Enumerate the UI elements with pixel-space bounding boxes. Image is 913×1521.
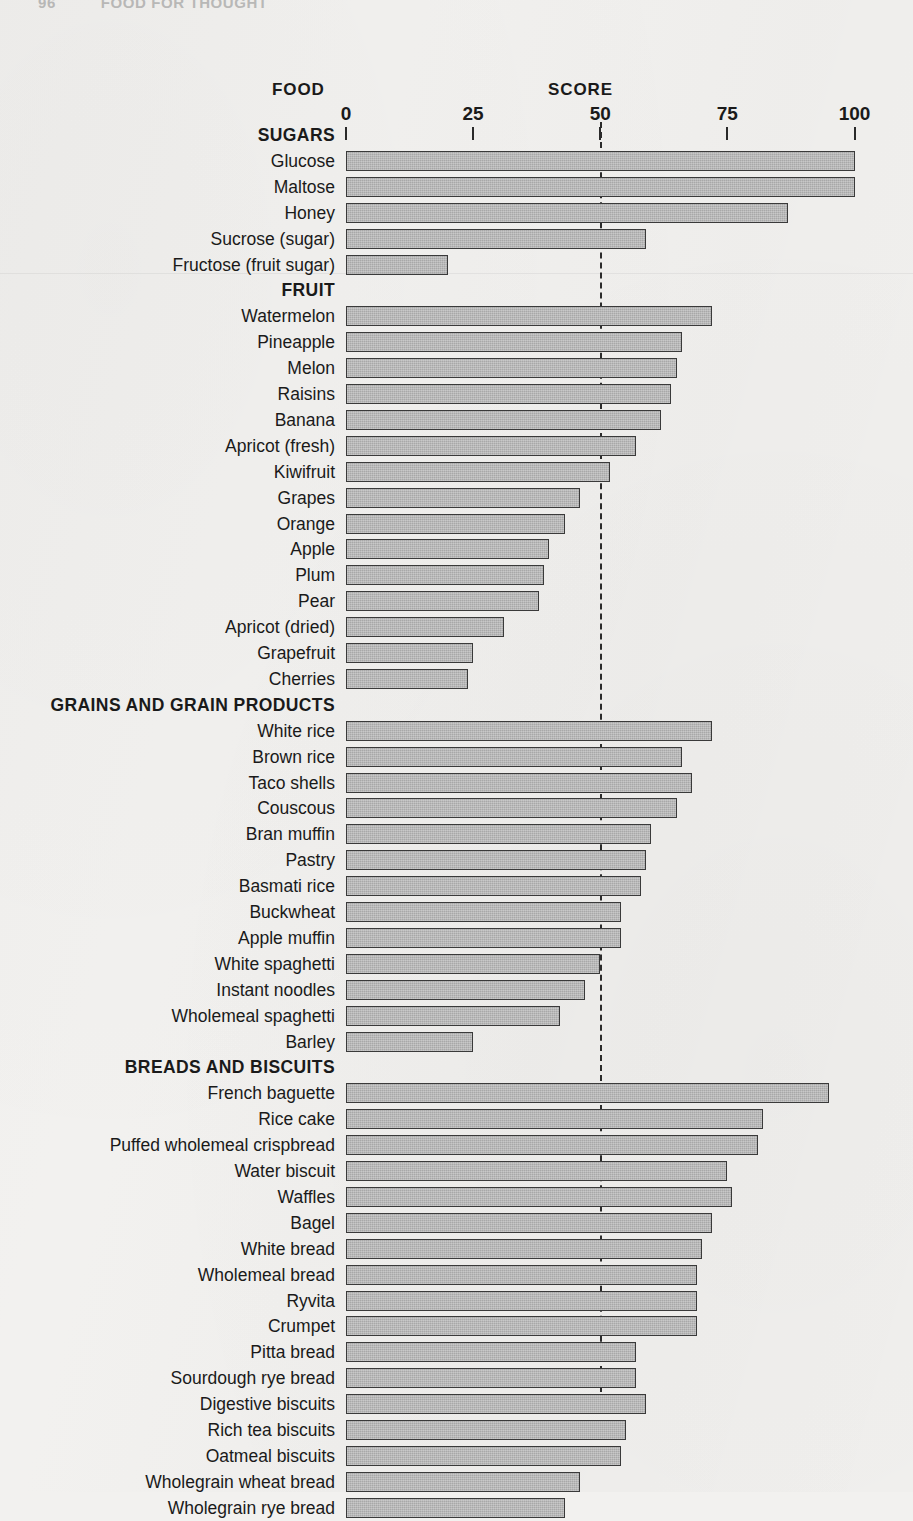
score-bar [346, 747, 682, 767]
chart-row: Puffed wholemeal crispbread [0, 1132, 913, 1158]
chart-row: Couscous [0, 795, 913, 821]
section-label: GRAINS AND GRAIN PRODUCTS [51, 695, 336, 715]
score-bar [346, 1161, 727, 1181]
chart-row: Watermelon [0, 303, 913, 329]
score-bar [346, 410, 661, 430]
chart-row: Bran muffin [0, 821, 913, 847]
food-label: White spaghetti [214, 954, 335, 974]
food-label: Pineapple [257, 332, 335, 352]
chart-row: French baguette [0, 1080, 913, 1106]
food-label: Apricot (fresh) [225, 436, 335, 456]
score-bar [346, 539, 549, 559]
food-label: Grapefruit [257, 643, 335, 663]
food-label: Banana [275, 410, 335, 430]
chart-row: Banana [0, 407, 913, 433]
chart-row: Basmati rice [0, 873, 913, 899]
score-bar [346, 1394, 646, 1414]
score-bar [346, 1472, 580, 1492]
food-label: Couscous [257, 798, 335, 818]
food-label: White rice [257, 721, 335, 741]
score-bar [346, 591, 539, 611]
score-bar [346, 773, 692, 793]
score-bar [346, 384, 671, 404]
score-bar [346, 1498, 565, 1518]
chart-row: Instant noodles [0, 977, 913, 1003]
column-header-food: FOOD [272, 80, 325, 100]
food-label: Sucrose (sugar) [211, 229, 336, 249]
chart-row: Grapefruit [0, 640, 913, 666]
food-label: Wholemeal bread [198, 1265, 335, 1285]
food-label: Bagel [290, 1213, 335, 1233]
chart-row: Wholegrain wheat bread [0, 1469, 913, 1495]
food-label: Apple muffin [238, 928, 335, 948]
score-bar [346, 229, 646, 249]
score-bar [346, 902, 621, 922]
score-bar [346, 721, 712, 741]
food-label: Plum [295, 565, 335, 585]
food-label: Taco shells [248, 773, 335, 793]
score-bar [346, 1213, 712, 1233]
chart-row: Oatmeal biscuits [0, 1443, 913, 1469]
chart-row: Pastry [0, 847, 913, 873]
chart-row: Digestive biscuits [0, 1391, 913, 1417]
score-bar [346, 1006, 560, 1026]
score-bar [346, 1239, 702, 1259]
score-bar [346, 1291, 697, 1311]
score-bar [346, 1420, 626, 1440]
score-bar [346, 332, 682, 352]
food-label: Pastry [285, 850, 335, 870]
chart-row: Cherries [0, 666, 913, 692]
food-label: Grapes [278, 488, 335, 508]
food-label: Oatmeal biscuits [206, 1446, 335, 1466]
score-bar [346, 151, 855, 171]
score-bar [346, 928, 621, 948]
section-header-row: GRAINS AND GRAIN PRODUCTS [0, 692, 913, 718]
food-label: Sourdough rye bread [171, 1368, 335, 1388]
chart-row: Maltose [0, 174, 913, 200]
chart-row: Kiwifruit [0, 459, 913, 485]
chart-row: Sucrose (sugar) [0, 226, 913, 252]
column-header-score: SCORE [548, 80, 613, 100]
score-bar [346, 358, 677, 378]
chart-row: Waffles [0, 1184, 913, 1210]
score-bar [346, 850, 646, 870]
food-label: Buckwheat [249, 902, 335, 922]
food-label: Watermelon [241, 306, 335, 326]
score-bar [346, 617, 504, 637]
chart-row: Apple muffin [0, 925, 913, 951]
score-bar [346, 876, 641, 896]
chart-row: Glucose [0, 148, 913, 174]
food-label: Kiwifruit [274, 462, 335, 482]
score-bar [346, 1446, 621, 1466]
food-label: Basmati rice [239, 876, 335, 896]
score-bar [346, 1032, 473, 1052]
score-bar [346, 669, 468, 689]
score-bar [346, 980, 585, 1000]
chart-row: Rich tea biscuits [0, 1417, 913, 1443]
score-bar [346, 177, 855, 197]
chart-row: Taco shells [0, 770, 913, 796]
score-bar [346, 462, 610, 482]
score-bar [346, 643, 473, 663]
chart-row: Ryvita [0, 1288, 913, 1314]
chart-row: Plum [0, 562, 913, 588]
chart-row: White bread [0, 1236, 913, 1262]
food-label: Waffles [278, 1187, 335, 1207]
section-header-row: FRUIT [0, 277, 913, 303]
section-label: BREADS AND BISCUITS [125, 1057, 335, 1077]
score-bar [346, 1316, 697, 1336]
chart-row: Brown rice [0, 744, 913, 770]
section-header-row: BREADS AND BISCUITS [0, 1054, 913, 1080]
score-bar [346, 798, 677, 818]
score-bar [346, 436, 636, 456]
section-label: SUGARS [258, 125, 335, 145]
food-label: Wholegrain wheat bread [145, 1472, 335, 1492]
food-label: Brown rice [252, 747, 335, 767]
chart-row: Buckwheat [0, 899, 913, 925]
score-bar [346, 1342, 636, 1362]
food-label: Melon [287, 358, 335, 378]
score-bar [346, 1109, 763, 1129]
food-label: Honey [284, 203, 335, 223]
score-bar [346, 824, 651, 844]
